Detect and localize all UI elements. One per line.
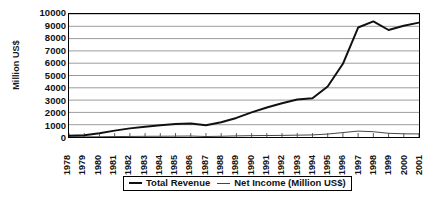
legend-line-swatch-icon	[129, 182, 142, 184]
y-axis-tick-label: 4000	[26, 83, 66, 92]
plot-svg	[69, 14, 419, 137]
y-axis-title: Million US$	[11, 25, 21, 105]
revenue-income-line-chart: Million US$ 1000090008000700060005000400…	[0, 0, 442, 201]
legend-item[interactable]: Net Income (Million US$)	[217, 178, 345, 188]
x-axis-tick-label: 1992	[277, 155, 286, 175]
x-axis-tick-label: 1986	[185, 155, 194, 175]
x-axis-tick-label: 1991	[262, 155, 271, 175]
legend-label: Total Revenue	[146, 178, 210, 188]
y-axis-tick-label: 1000	[26, 121, 66, 130]
chart-legend: Total RevenueNet Income (Million US$)	[123, 176, 352, 191]
x-axis-tick-label: 1993	[293, 155, 302, 175]
x-axis-tick-label: 1999	[384, 155, 393, 175]
x-axis-tick-label: 1985	[170, 155, 179, 175]
x-axis-tick-label: 1983	[140, 155, 149, 175]
y-axis-tick-label: 10000	[26, 8, 66, 17]
y-axis-tick-label: 7000	[26, 46, 66, 55]
x-axis-tick-label: 1981	[109, 155, 118, 175]
legend-line-swatch-icon	[217, 183, 230, 184]
y-axis-tick-label: 6000	[26, 58, 66, 67]
x-axis-tick-label: 1998	[369, 155, 378, 175]
y-axis-tick-label: 2000	[26, 108, 66, 117]
x-axis-tick-label: 1988	[216, 155, 225, 175]
x-axis-tick-label: 1980	[94, 155, 103, 175]
x-axis-tick-label: 1989	[231, 155, 240, 175]
x-axis-tick-label: 1982	[124, 155, 133, 175]
y-axis-tick-labels: 1000090008000700060005000400030002000100…	[22, 0, 66, 201]
series-line	[69, 131, 419, 137]
y-axis-tick-label: 3000	[26, 96, 66, 105]
legend-item[interactable]: Total Revenue	[129, 178, 210, 188]
x-axis-tick-label: 2000	[400, 155, 409, 175]
x-axis-tick-label: 1979	[78, 155, 87, 175]
x-axis-tick-label: 2001	[415, 155, 424, 175]
x-axis-tick-label: 1997	[354, 155, 363, 175]
x-axis-tick-label: 1996	[338, 155, 347, 175]
x-axis-tick-label: 1978	[63, 155, 72, 175]
legend-label: Net Income (Million US$)	[234, 178, 345, 188]
x-axis-tick-label: 1994	[308, 155, 317, 175]
x-axis-tick-label: 1987	[201, 155, 210, 175]
y-axis-tick-label: 0	[26, 133, 66, 142]
x-axis-tick-label: 1990	[247, 155, 256, 175]
plot-area	[68, 13, 420, 138]
x-axis-tick-label: 1984	[155, 155, 164, 175]
y-axis-tick-label: 5000	[26, 71, 66, 80]
x-axis-tick-label: 1995	[323, 155, 332, 175]
y-axis-tick-label: 8000	[26, 33, 66, 42]
x-axis-tick-labels: 1978197919801981198219831984198519861987…	[68, 139, 420, 175]
y-axis-tick-label: 9000	[26, 21, 66, 30]
